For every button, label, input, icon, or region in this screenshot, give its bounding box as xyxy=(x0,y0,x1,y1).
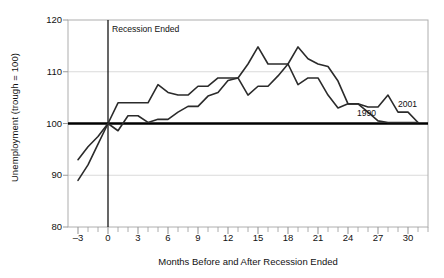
y-tick-label: 100 xyxy=(36,119,62,129)
y-tick-label: 80 xyxy=(36,222,62,232)
x-tick-label: 27 xyxy=(363,232,393,243)
x-axis-title: Months Before and After Recession Ended xyxy=(68,256,428,267)
series-label-1990: 1990 xyxy=(357,108,376,118)
x-tick-label: 3 xyxy=(123,232,153,243)
x-tick-label: –3 xyxy=(63,232,93,243)
x-tick-label: 6 xyxy=(153,232,183,243)
y-axis-title: Unemployment (trough = 100) xyxy=(9,18,20,218)
x-tick-label: 18 xyxy=(273,232,303,243)
y-tick-label: 110 xyxy=(36,67,62,77)
recession-ended-marker: Recession Ended xyxy=(112,24,179,34)
x-tick-label: 24 xyxy=(333,232,363,243)
y-tick-label: 120 xyxy=(36,15,62,25)
x-tick-label: 9 xyxy=(183,232,213,243)
series-label-2001: 2001 xyxy=(398,99,417,109)
x-tick-label: 21 xyxy=(303,232,333,243)
x-tick-label: 0 xyxy=(93,232,123,243)
chart-container: Unemployment (trough = 100) Months Befor… xyxy=(0,0,444,278)
y-tick-label: 90 xyxy=(36,170,62,180)
x-tick-label: 12 xyxy=(213,232,243,243)
x-tick-label: 30 xyxy=(393,232,423,243)
x-tick-label: 15 xyxy=(243,232,273,243)
